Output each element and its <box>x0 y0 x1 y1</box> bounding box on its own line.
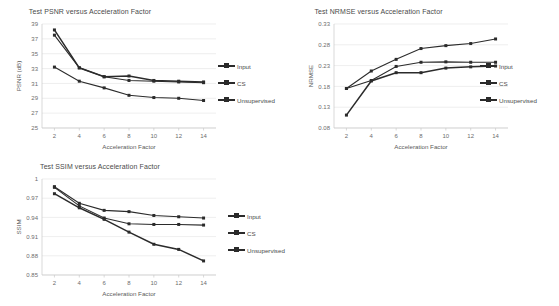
legend-label-cs: CS <box>499 80 508 87</box>
y-axis-title: PSNR (dB) <box>15 61 22 92</box>
x-tick-label: 8 <box>127 280 131 286</box>
x-tick-label: 12 <box>467 133 474 139</box>
data-point-marker <box>345 114 348 117</box>
data-point-marker <box>53 186 56 189</box>
legend-item-cs[interactable]: CS <box>228 229 285 237</box>
data-point-marker <box>177 223 180 226</box>
data-point-marker <box>395 58 398 61</box>
y-tick-label: 29 <box>31 95 38 101</box>
legend-swatch-icon <box>480 65 497 67</box>
legend-swatch-icon <box>218 65 235 67</box>
legend-label-input: Input <box>247 213 261 220</box>
y-tick-label: 35 <box>31 51 38 57</box>
legend-item-unsupervised[interactable]: Unsupervised <box>480 96 537 104</box>
x-tick-label: 8 <box>419 133 423 139</box>
legend-swatch-icon <box>228 232 245 234</box>
x-axis-title: Acceleration Factor <box>102 143 155 150</box>
data-point-marker <box>78 202 81 205</box>
x-tick-label: 14 <box>492 133 499 139</box>
chart-panel-ssim: Test SSIM versus Acceleration Factor 0.8… <box>0 160 300 306</box>
data-point-marker <box>128 75 131 78</box>
x-tick-label: 10 <box>443 133 450 139</box>
legend-item-cs[interactable]: CS <box>480 79 537 87</box>
y-tick-label: 0.33 <box>318 21 330 27</box>
x-tick-label: 12 <box>175 280 182 286</box>
x-tick-label: 14 <box>200 280 207 286</box>
chart-panel-nrmse: Test NRMSE versus Acceleration Factor 0.… <box>288 4 559 159</box>
x-tick-label: 4 <box>370 133 374 139</box>
y-tick-label: 0.18 <box>318 84 330 90</box>
y-tick-label: 1 <box>35 176 39 182</box>
y-tick-label: 39 <box>31 21 38 27</box>
data-point-marker <box>202 259 205 262</box>
legend-label-cs: CS <box>247 230 256 237</box>
data-point-marker <box>78 80 81 83</box>
x-tick-label: 10 <box>151 280 158 286</box>
data-point-marker <box>177 248 180 251</box>
y-tick-label: 25 <box>31 125 38 131</box>
y-tick-label: 0.13 <box>318 104 330 110</box>
legend-item-input[interactable]: Input <box>228 212 285 220</box>
ssim-svg: 0.850.880.910.940.9712468101214Accelerat… <box>0 173 230 305</box>
y-tick-label: 31 <box>31 81 38 87</box>
data-point-marker <box>53 28 56 31</box>
data-point-marker <box>128 231 131 234</box>
x-tick-label: 4 <box>78 133 82 139</box>
data-point-marker <box>202 217 205 220</box>
y-tick-label: 0.97 <box>26 195 38 201</box>
data-point-marker <box>420 71 423 74</box>
data-point-marker <box>395 71 398 74</box>
data-point-marker <box>444 60 447 63</box>
legend-item-unsupervised[interactable]: Unsupervised <box>218 96 275 104</box>
legend-nrmse: Input CS Unsupervised <box>480 62 537 113</box>
data-point-marker <box>420 61 423 64</box>
data-point-marker <box>128 222 131 225</box>
x-tick-label: 14 <box>200 133 207 139</box>
data-point-marker <box>420 47 423 50</box>
legend-swatch-icon <box>228 215 245 217</box>
data-point-marker <box>53 192 56 195</box>
y-tick-label: 33 <box>31 66 38 72</box>
data-point-marker <box>202 99 205 102</box>
legend-item-unsupervised[interactable]: Unsupervised <box>228 246 285 254</box>
chart-panel-psnr: Test PSNR versus Acceleration Factor 252… <box>0 4 290 159</box>
data-point-marker <box>103 75 106 78</box>
y-tick-label: 0.85 <box>26 272 38 278</box>
data-point-marker <box>494 37 497 40</box>
legend-swatch-icon <box>218 82 235 84</box>
x-axis-title: Acceleration Factor <box>394 143 447 150</box>
legend-label-input: Input <box>499 63 513 70</box>
psnr-svg: 25272931333537392468101214Acceleration F… <box>0 18 230 158</box>
data-point-marker <box>53 34 56 37</box>
legend-swatch-icon <box>218 99 235 101</box>
data-point-marker <box>202 80 205 83</box>
x-tick-label: 4 <box>78 280 82 286</box>
x-tick-label: 2 <box>53 280 57 286</box>
series-line-unsupervised <box>54 30 203 82</box>
y-tick-label: 37 <box>31 36 38 42</box>
legend-label-unsupervised: Unsupervised <box>247 247 285 254</box>
legend-item-cs[interactable]: CS <box>218 79 275 87</box>
x-tick-label: 8 <box>127 133 131 139</box>
data-point-marker <box>103 209 106 212</box>
chart-title-nrmse: Test NRMSE versus Acceleration Factor <box>243 8 514 15</box>
y-tick-label: 27 <box>31 110 38 116</box>
x-tick-label: 10 <box>151 133 158 139</box>
x-tick-label: 6 <box>102 280 106 286</box>
legend-item-input[interactable]: Input <box>218 62 275 70</box>
data-point-marker <box>78 206 81 209</box>
x-tick-label: 2 <box>53 133 57 139</box>
data-point-marker <box>444 44 447 47</box>
data-point-marker <box>444 67 447 70</box>
legend-item-input[interactable]: Input <box>480 62 537 70</box>
data-point-marker <box>128 79 131 82</box>
y-axis-title: SSIM <box>15 219 22 234</box>
data-point-marker <box>128 94 131 97</box>
data-point-marker <box>152 223 155 226</box>
y-tick-label: 0.88 <box>26 253 38 259</box>
y-axis-title: NRMSE <box>307 65 314 87</box>
data-point-marker <box>469 42 472 45</box>
data-point-marker <box>152 214 155 217</box>
chart-title-psnr: Test PSNR versus Acceleration Factor <box>0 8 235 15</box>
data-point-marker <box>78 66 81 69</box>
